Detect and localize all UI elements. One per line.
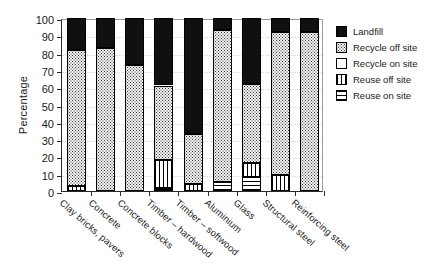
x-axis-tick xyxy=(208,191,209,196)
y-axis-tick-label: 10 xyxy=(20,170,54,182)
bar-segment-landfill xyxy=(213,18,232,30)
y-axis-tick-label: 60 xyxy=(20,83,54,95)
x-axis-tick xyxy=(295,191,296,196)
bar-segment-reuse-off-site xyxy=(154,160,173,188)
y-axis-tick-label: 20 xyxy=(20,152,54,164)
legend-item: Landfill xyxy=(336,24,440,39)
bar-stack xyxy=(154,18,173,191)
y-axis-tick xyxy=(57,141,62,142)
bar-segment-recycle-off-site xyxy=(125,65,144,191)
bar-stack xyxy=(271,18,290,191)
legend-swatch xyxy=(336,74,347,85)
bar-stack xyxy=(67,18,86,191)
legend-swatch xyxy=(336,42,347,53)
legend-label: Recycle on site xyxy=(353,59,417,69)
bar-stack xyxy=(184,18,203,191)
bar-segment-landfill xyxy=(300,18,319,32)
bar-stack xyxy=(125,18,144,191)
bar-stack xyxy=(213,18,232,191)
bar-segment-recycle-off-site xyxy=(96,48,115,191)
bar-segment-reuse-off-site xyxy=(184,184,203,191)
y-axis-tick-label: 0 xyxy=(20,187,54,199)
legend-label: Reuse on site xyxy=(353,91,411,101)
plot-area: 0102030405060708090100 xyxy=(61,19,323,192)
bar-segment-landfill xyxy=(125,18,144,65)
bar-segment-recycle-off-site xyxy=(184,134,203,184)
y-axis-tick xyxy=(57,89,62,90)
bar-segment-reuse-on-site xyxy=(213,182,232,191)
y-axis-tick-label: 30 xyxy=(20,135,54,147)
bar-segment-landfill xyxy=(242,18,261,84)
legend-swatch xyxy=(336,26,347,37)
bar-segment-landfill xyxy=(184,18,203,134)
y-axis-tick-label: 70 xyxy=(20,66,54,78)
legend-item: Reuse off site xyxy=(336,72,440,87)
y-axis-tick-label: 40 xyxy=(20,118,54,130)
bar-segment-landfill xyxy=(96,18,115,48)
legend-swatch xyxy=(336,90,347,101)
x-axis-tick xyxy=(91,191,92,196)
y-axis-tick xyxy=(57,158,62,159)
y-axis-tick xyxy=(57,124,62,125)
y-axis-tick-label: 100 xyxy=(20,14,54,26)
bar-segment-recycle-off-site xyxy=(271,32,290,176)
x-axis-tick xyxy=(266,191,267,196)
x-axis-tick xyxy=(324,191,325,196)
legend-swatch xyxy=(336,58,347,69)
x-axis-label: Glass xyxy=(232,197,258,222)
legend-item: Recycle on site xyxy=(336,56,440,71)
y-axis-tick xyxy=(57,55,62,56)
y-axis-tick xyxy=(57,37,62,38)
legend-item: Recycle off site xyxy=(336,40,440,55)
y-axis-tick xyxy=(57,193,62,194)
x-axis-tick xyxy=(178,191,179,196)
bar-segment-landfill xyxy=(271,18,290,32)
legend-label: Recycle off site xyxy=(353,43,417,53)
y-axis-tick-label: 80 xyxy=(20,49,54,61)
bar-segment-recycle-off-site xyxy=(300,32,319,191)
legend-item: Reuse on site xyxy=(336,88,440,103)
y-axis-tick-label: 90 xyxy=(20,31,54,43)
x-axis-tick xyxy=(149,191,150,196)
y-axis-tick xyxy=(57,107,62,108)
bar-segment-landfill xyxy=(67,18,86,50)
x-axis-tick xyxy=(120,191,121,196)
bar-segment-recycle-off-site xyxy=(67,50,86,186)
bar-segment-reuse-off-site xyxy=(67,186,86,191)
chart-legend: LandfillRecycle off siteRecycle on siteR… xyxy=(336,24,440,104)
x-axis-tick xyxy=(237,191,238,196)
bar-stack xyxy=(96,18,115,191)
y-axis-tick-label: 50 xyxy=(20,101,54,113)
bar-segment-reuse-off-site xyxy=(271,175,290,191)
legend-label: Reuse off site xyxy=(353,75,411,85)
legend-label: Landfill xyxy=(353,27,383,37)
bar-segment-landfill xyxy=(154,18,173,85)
bar-segment-reuse-off-site xyxy=(242,163,261,177)
y-axis-tick xyxy=(57,20,62,21)
y-axis-tick xyxy=(57,176,62,177)
bar-segment-reuse-on-site xyxy=(242,177,261,191)
y-axis-tick xyxy=(57,72,62,73)
bar-segment-recycle-off-site xyxy=(213,30,232,182)
bar-stack xyxy=(242,18,261,191)
bar-stack xyxy=(300,18,319,191)
bar-segment-reuse-on-site xyxy=(154,188,173,191)
bar-segment-recycle-off-site xyxy=(242,84,261,164)
bar-segment-recycle-off-site xyxy=(154,86,173,160)
stacked-bar-chart: Percentage 0102030405060708090100 Clay b… xyxy=(0,0,442,277)
